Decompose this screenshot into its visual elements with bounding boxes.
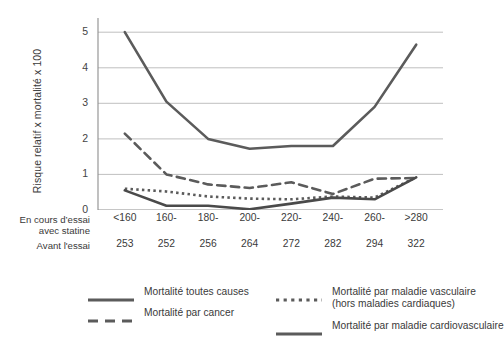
- legend-label: Mortalité toutes causes: [144, 286, 249, 298]
- legend-label: Mortalité par cancer: [144, 307, 249, 319]
- row-label-line1: En cours d’essai: [20, 214, 90, 225]
- legend-item[interactable]: Mortalité par maladie cardiovasculaire: [276, 320, 504, 332]
- plot-area: [96, 18, 443, 210]
- y-tick-label: 5: [74, 25, 88, 37]
- series-line-1: [125, 134, 416, 194]
- y-tick-label: 2: [74, 132, 88, 144]
- x-axis-block: En cours d’essaiavec statine Avant l'ess…: [0, 212, 490, 282]
- x-axis-row-label-baseline: Avant l'essai: [0, 240, 90, 251]
- legend-swatch-dashed-icon: [88, 311, 134, 319]
- x-baseline-value: 322: [386, 238, 446, 249]
- legend-swatch-solid-icon: [276, 324, 322, 332]
- legend-column-0: Mortalité toutes causesMortalité par can…: [88, 286, 249, 329]
- x-axis-category-row: <160160-180-200-220-240-260->280: [96, 212, 443, 234]
- legend-item[interactable]: Mortalité par cancer: [88, 307, 249, 319]
- legend-swatch-dotted-icon: [276, 290, 322, 298]
- chart-legend: Mortalité toutes causesMortalité par can…: [0, 286, 490, 350]
- y-axis-title: Risque relatif x mortalité x 100: [31, 21, 43, 221]
- gridlines: [98, 32, 443, 210]
- legend-item[interactable]: Mortalité toutes causes: [88, 286, 249, 298]
- series-line-0: [125, 32, 416, 149]
- chart-svg: [96, 18, 443, 210]
- legend-swatch-solid-icon: [88, 290, 134, 298]
- legend-item[interactable]: Mortalité par maladie vasculaire(hors ma…: [276, 286, 504, 311]
- legend-label: Mortalité par maladie vasculaire(hors ma…: [332, 286, 504, 311]
- y-tick-label: 4: [74, 61, 88, 73]
- row-label-line2: avec statine: [39, 225, 90, 236]
- legend-label: Mortalité par maladie cardiovasculaire: [332, 320, 504, 332]
- legend-column-1: Mortalité par maladie vasculaire(hors ma…: [276, 286, 504, 341]
- x-axis-cells: <160160-180-200-220-240-260->280 2532522…: [96, 212, 443, 260]
- y-tick-label: 3: [74, 96, 88, 108]
- x-axis-secondary-row: 253252256264272282294322: [96, 238, 443, 260]
- x-axis-row-label-trial: En cours d’essaiavec statine: [0, 214, 90, 237]
- series-line-3: [125, 177, 416, 209]
- series-layer: [125, 32, 416, 209]
- x-category-label: >280: [386, 212, 446, 223]
- y-tick-label: 1: [74, 167, 88, 179]
- legend-label-line2: (hors maladies cardiaques): [332, 298, 504, 310]
